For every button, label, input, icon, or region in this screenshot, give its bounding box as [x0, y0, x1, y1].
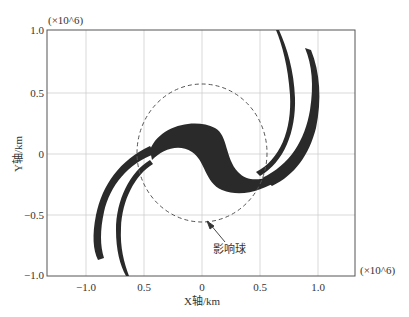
svg-text:0.5: 0.5 [137, 281, 151, 293]
svg-text:0: 0 [199, 281, 205, 293]
annotation-label: 影响球 [213, 242, 246, 255]
x-axis-label: X轴/km [184, 294, 221, 307]
x-scale-note: (×10^6) [360, 264, 396, 277]
svg-text:−1.0: −1.0 [76, 281, 96, 293]
y-axis-label: Y轴/km [11, 136, 24, 173]
svg-text:0.5: 0.5 [30, 87, 44, 99]
annotation-arrow [207, 221, 225, 242]
spiral-data [94, 30, 320, 276]
svg-text:0.5: 0.5 [253, 281, 267, 293]
x-tick-labels: −1.0 0.5 0 0.5 1.0 [76, 281, 325, 293]
chart: 影响球 1.0 0.5 0 −0.5 −1.0 −1.0 0.5 0 0.5 1… [0, 0, 409, 317]
svg-text:−0.5: −0.5 [24, 209, 44, 221]
svg-text:1.0: 1.0 [311, 281, 325, 293]
svg-text:0: 0 [39, 148, 45, 160]
svg-text:1.0: 1.0 [30, 24, 44, 36]
y-scale-note: (×10^6) [48, 14, 84, 27]
y-tick-labels: 1.0 0.5 0 −0.5 −1.0 [24, 24, 44, 281]
svg-text:−1.0: −1.0 [24, 269, 44, 281]
